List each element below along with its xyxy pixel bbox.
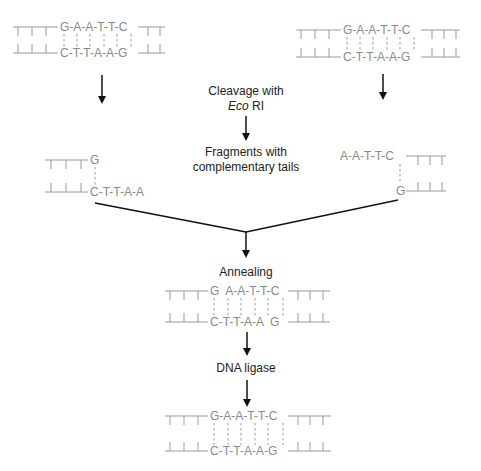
svg-text:G: G xyxy=(396,184,405,198)
arrow-ligase xyxy=(243,380,251,407)
cleavage-label-line1: Cleavage with xyxy=(196,84,296,99)
diagram-canvas: G-A-A-T-T-C C-T-T-A-A-G G-A-A-T-T-C C-T-… xyxy=(0,0,481,471)
svg-text:C-T-T-A-A-G: C-T-T-A-A-G xyxy=(343,50,410,64)
arrow-annealing xyxy=(243,332,251,356)
svg-text:C-T-T-A-A: C-T-T-A-A xyxy=(90,185,144,199)
dna-duplex-ligated: G-A-A-T-T-C C-T-T-A-A-G xyxy=(165,409,331,458)
cleavage-label: Cleavage with Eco RI xyxy=(196,84,296,114)
fragments-label: Fragments with complementary tails xyxy=(186,145,306,175)
dna-duplex-annealed: G A-A-T-T-C C-T-T-A-A G xyxy=(165,284,330,329)
eco-italic: Eco xyxy=(228,99,249,113)
svg-text:G: G xyxy=(90,153,99,167)
fragments-label-line2: complementary tails xyxy=(186,160,306,175)
dna-fragment-right: A-A-T-T-C G xyxy=(340,149,446,198)
converging-lines xyxy=(95,200,398,258)
dna-duplex-left-original: G-A-A-T-T-C C-T-T-A-A-G xyxy=(13,20,165,60)
svg-text:G-A-A-T-T-C: G-A-A-T-T-C xyxy=(210,409,278,423)
top-strand-bases: G-A-A-T-T-C xyxy=(60,20,128,34)
ri-text: RI xyxy=(249,99,264,113)
arrow-right-cleavage xyxy=(379,74,387,100)
dna-duplex-right-original: G-A-A-T-T-C C-T-T-A-A-G xyxy=(296,23,460,64)
bottom-strand-bases: C-T-T-A-A-G xyxy=(60,46,127,60)
svg-text:A-A-T-T-C: A-A-T-T-C xyxy=(340,149,394,163)
annealing-label: Annealing xyxy=(196,265,296,280)
fragments-label-line1: Fragments with xyxy=(186,145,306,160)
svg-text:G A-A-T-T-C: G A-A-T-T-C xyxy=(210,284,280,298)
arrow-center-cleavage xyxy=(242,116,250,141)
svg-text:G-A-A-T-T-C: G-A-A-T-T-C xyxy=(343,23,411,37)
dna-fragment-left: G C-T-T-A-A xyxy=(45,153,144,199)
dna-ligase-label: DNA ligase xyxy=(196,361,296,376)
arrow-left-cleavage xyxy=(98,75,106,104)
cleavage-label-line2: Eco RI xyxy=(196,99,296,114)
svg-text:C-T-T-A-A-G: C-T-T-A-A-G xyxy=(210,444,277,458)
svg-text:C-T-T-A-A G: C-T-T-A-A G xyxy=(210,315,279,329)
